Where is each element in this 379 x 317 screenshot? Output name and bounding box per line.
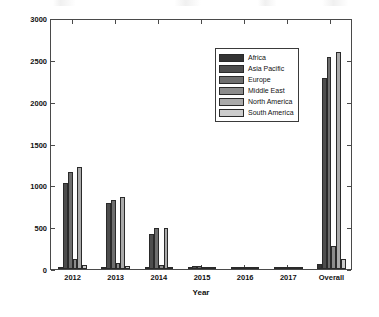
bar-group xyxy=(101,20,129,269)
x-tick-label: 2013 xyxy=(107,273,124,282)
bar xyxy=(336,52,341,269)
y-tick-mark xyxy=(51,19,55,20)
x-axis-label: Year xyxy=(50,288,352,297)
y-tick-label: 1500 xyxy=(30,141,47,150)
bar xyxy=(168,267,173,269)
bar xyxy=(327,57,332,269)
y-tick-mark xyxy=(51,61,55,62)
legend-label: Middle East xyxy=(248,87,285,95)
bar xyxy=(298,267,303,269)
y-tick-mark-right xyxy=(347,103,351,104)
y-tick-mark-right xyxy=(347,19,351,20)
bar xyxy=(164,228,169,269)
bar xyxy=(341,259,346,269)
y-tick-mark xyxy=(51,270,55,271)
y-tick-label: 1000 xyxy=(30,182,47,191)
bar xyxy=(125,266,130,269)
x-tick-label: 2017 xyxy=(280,273,297,282)
legend-item: South America xyxy=(219,107,294,118)
bar xyxy=(255,267,260,269)
bar xyxy=(211,267,216,269)
y-tick-label: 2500 xyxy=(30,57,47,66)
bar xyxy=(77,167,82,269)
y-tick-label: 500 xyxy=(34,224,47,233)
x-tick-label: 2012 xyxy=(64,273,81,282)
legend-item: Middle East xyxy=(219,85,294,96)
y-tick-label: 3000 xyxy=(30,15,47,24)
y-tick-mark-right xyxy=(347,270,351,271)
bar xyxy=(120,197,125,269)
legend-swatch xyxy=(219,87,244,95)
y-tick-label: 0 xyxy=(43,266,47,275)
y-tick-mark xyxy=(51,145,55,146)
legend-label: North America xyxy=(248,98,292,106)
legend: AfricaAsia PacificEuropeMiddle EastNorth… xyxy=(215,48,299,122)
y-tick-mark xyxy=(51,228,55,229)
legend-swatch xyxy=(219,109,244,117)
x-tick-label: 2016 xyxy=(237,273,254,282)
bar-group xyxy=(58,20,86,269)
legend-rows: AfricaAsia PacificEuropeMiddle EastNorth… xyxy=(219,52,294,118)
legend-item: Asia Pacific xyxy=(219,63,294,74)
x-tick-label: 2015 xyxy=(194,273,211,282)
legend-swatch xyxy=(219,76,244,84)
x-tick-label: Overall xyxy=(319,273,344,282)
legend-label: Asia Pacific xyxy=(248,65,284,73)
legend-item: Europe xyxy=(219,74,294,85)
legend-item: Africa xyxy=(219,52,294,63)
y-tick-label: 2000 xyxy=(30,99,47,108)
legend-swatch xyxy=(219,54,244,62)
legend-label: Europe xyxy=(248,76,271,84)
top-edge-artifact xyxy=(0,0,379,6)
x-tick-label: 2014 xyxy=(151,273,168,282)
legend-swatch xyxy=(219,65,244,73)
y-tick-mark-right xyxy=(347,186,351,187)
bar xyxy=(111,200,116,269)
plot-area: 050010001500200025003000 201220132014201… xyxy=(50,19,352,270)
y-tick-mark xyxy=(51,186,55,187)
y-tick-mark-right xyxy=(347,228,351,229)
bar xyxy=(82,265,87,269)
y-tick-mark-right xyxy=(347,61,351,62)
chart-screenshot: Patent-Cited Scholarly Output 0500100015… xyxy=(0,0,379,317)
y-tick-mark-right xyxy=(347,145,351,146)
legend-item: North America xyxy=(219,96,294,107)
legend-swatch xyxy=(219,98,244,106)
bar-group xyxy=(317,20,345,269)
bar-group xyxy=(188,20,216,269)
bar xyxy=(68,172,73,269)
legend-label: Africa xyxy=(248,54,266,62)
bar xyxy=(154,228,159,269)
y-tick-mark xyxy=(51,103,55,104)
legend-label: South America xyxy=(248,109,294,117)
bar-group xyxy=(145,20,173,269)
